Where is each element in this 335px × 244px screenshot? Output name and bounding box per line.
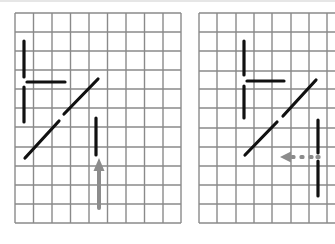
left-grid-panel [15, 13, 181, 223]
left-dashed-arrow-icon [280, 152, 321, 163]
black-segments [24, 41, 98, 158]
grid-lines [199, 13, 335, 223]
diagonal-upper-part [64, 79, 98, 114]
grid-diagram-figure [0, 0, 335, 244]
black-segments [244, 41, 318, 196]
diagonal-upper-part [283, 80, 316, 116]
right-grid-panel [199, 13, 335, 223]
